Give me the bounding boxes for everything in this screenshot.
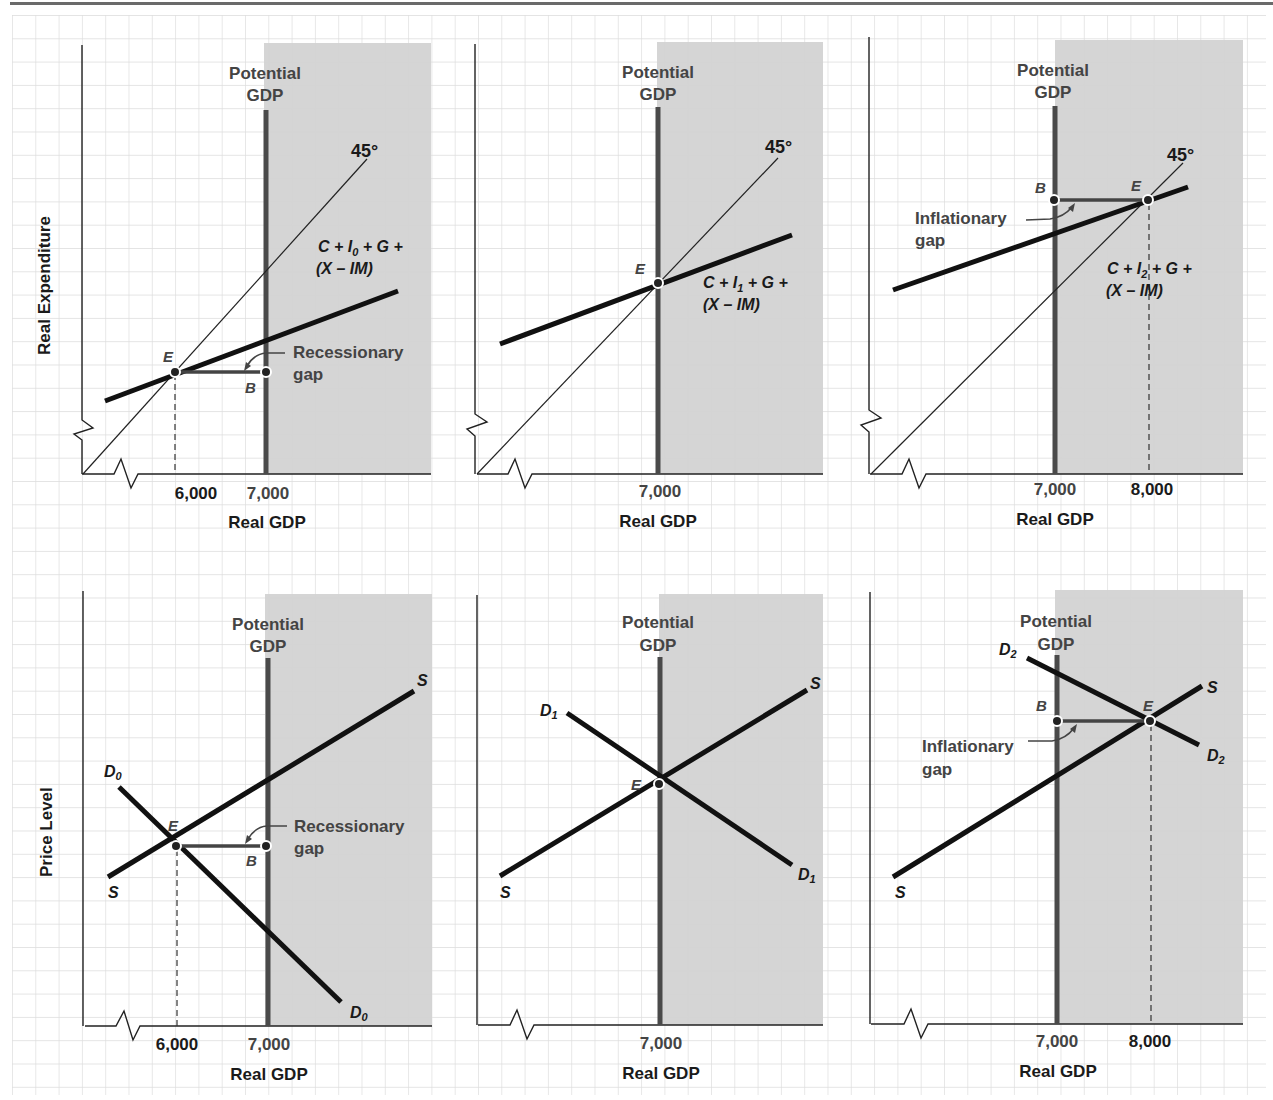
gap-label: Recessionary xyxy=(293,343,404,362)
point-e xyxy=(1145,716,1155,726)
45-degree-label: 45° xyxy=(1167,145,1194,165)
x-axis-label: Real GDP xyxy=(622,1064,699,1083)
point-e xyxy=(171,841,181,851)
x-tick-8000: 8,000 xyxy=(1129,1032,1172,1051)
point-b-label: B xyxy=(246,852,257,869)
point-e xyxy=(653,278,663,288)
potential-gdp-label-2: GDP xyxy=(247,86,284,105)
point-b xyxy=(261,367,271,377)
x-axis-label: Real GDP xyxy=(1016,510,1093,529)
potential-gdp-label-2: GDP xyxy=(1035,83,1072,102)
x-tick-7000: 7,000 xyxy=(639,482,682,501)
supply-label-top: S xyxy=(1207,679,1218,696)
row-label-price-level: Price Level xyxy=(37,787,56,877)
figure-canvas: Real Expenditure Price Level Potential G… xyxy=(0,0,1273,1100)
x-tick-8000: 8,000 xyxy=(1131,480,1174,499)
potential-gdp-label-2: GDP xyxy=(250,637,287,656)
curve-label-2: (X – IM) xyxy=(316,260,373,277)
supply-label-top: S xyxy=(417,672,428,689)
potential-gdp-label: Potential xyxy=(1020,612,1092,631)
x-axis-label: Real GDP xyxy=(228,513,305,532)
point-e-label: E xyxy=(168,817,179,834)
point-e xyxy=(170,367,180,377)
potential-gdp-label: Potential xyxy=(232,615,304,634)
supply-label-top: S xyxy=(810,675,821,692)
x-tick-7000: 7,000 xyxy=(1036,1032,1079,1051)
x-axis-label: Real GDP xyxy=(1019,1062,1096,1081)
point-e-label: E xyxy=(163,348,174,365)
potential-gdp-label: Potential xyxy=(1017,61,1089,80)
gap-label: Inflationary xyxy=(922,737,1014,756)
point-e-label: E xyxy=(631,776,642,793)
gap-label: Inflationary xyxy=(915,209,1007,228)
point-e-label: E xyxy=(1131,177,1142,194)
45-degree-label: 45° xyxy=(351,141,378,161)
point-e-label: E xyxy=(635,260,646,277)
supply-label-bottom: S xyxy=(500,884,511,901)
45-degree-label: 45° xyxy=(765,137,792,157)
x-tick-7000: 7,000 xyxy=(248,1035,291,1054)
supply-label-bottom: S xyxy=(895,884,906,901)
point-b xyxy=(1049,195,1059,205)
supply-label-bottom: S xyxy=(108,884,119,901)
x-tick-7000: 7,000 xyxy=(1034,480,1077,499)
point-b-label: B xyxy=(1036,697,1047,714)
point-b-label: B xyxy=(245,379,256,396)
curve-label-2: (X – IM) xyxy=(703,296,760,313)
row-label-real-expenditure: Real Expenditure xyxy=(35,216,54,355)
point-e xyxy=(654,779,664,789)
point-e-label: E xyxy=(1143,697,1154,714)
x-tick-7000: 7,000 xyxy=(247,484,290,503)
x-tick-6000: 6,000 xyxy=(175,484,218,503)
curve-label-2: (X – IM) xyxy=(1106,282,1163,299)
potential-gdp-label-2: GDP xyxy=(640,636,677,655)
point-b xyxy=(1052,716,1062,726)
gap-label-2: gap xyxy=(294,839,324,858)
gap-label-2: gap xyxy=(293,365,323,384)
point-b-label: B xyxy=(1035,179,1046,196)
top-rule xyxy=(10,2,1273,5)
x-tick-7000: 7,000 xyxy=(640,1034,683,1053)
gap-label-2: gap xyxy=(915,231,945,250)
potential-gdp-label-2: GDP xyxy=(640,85,677,104)
potential-gdp-label: Potential xyxy=(622,63,694,82)
point-e xyxy=(1143,195,1153,205)
point-b xyxy=(261,841,271,851)
potential-gdp-label-2: GDP xyxy=(1038,635,1075,654)
x-tick-6000: 6,000 xyxy=(156,1035,199,1054)
potential-gdp-label: Potential xyxy=(229,64,301,83)
x-axis-label: Real GDP xyxy=(619,512,696,531)
gap-label-2: gap xyxy=(922,760,952,779)
x-axis-label: Real GDP xyxy=(230,1065,307,1084)
potential-gdp-label: Potential xyxy=(622,613,694,632)
gap-label: Recessionary xyxy=(294,817,405,836)
